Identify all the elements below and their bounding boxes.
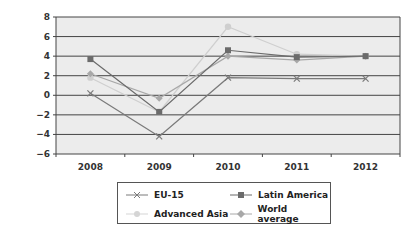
y-tick-label: −2 xyxy=(36,110,50,120)
legend-label: World average xyxy=(258,204,330,224)
y-tick-label: 6 xyxy=(44,32,50,42)
y-tick-label: 4 xyxy=(44,51,50,61)
x-axis: 20082009201020112012 xyxy=(56,154,400,172)
y-tick-label: 2 xyxy=(44,71,50,81)
square-marker-icon xyxy=(363,53,369,59)
legend-label: EU-15 xyxy=(154,190,184,200)
plot-area xyxy=(56,17,400,154)
square-marker-icon xyxy=(87,56,93,62)
y-tick-label: −6 xyxy=(36,149,50,159)
legend-item-world-average: World average xyxy=(230,207,330,221)
legend-label: Latin America xyxy=(258,190,328,200)
circle-marker-icon xyxy=(126,209,148,219)
square-marker-icon xyxy=(294,54,300,60)
line-chart: 86420−2−4−6 20082009201020112012 xyxy=(0,0,404,182)
legend-item-advanced-asia: Advanced Asia xyxy=(126,207,228,221)
legend-item-eu15: EU-15 xyxy=(126,188,184,202)
diamond-marker-icon xyxy=(230,209,252,219)
x-tick-label: 2010 xyxy=(215,162,240,172)
y-tick-label: −4 xyxy=(36,129,50,139)
y-tick-label: 0 xyxy=(44,90,50,100)
x-tick-label: 2012 xyxy=(353,162,378,172)
legend-item-latin-america: Latin America xyxy=(230,188,328,202)
square-marker-icon xyxy=(156,109,162,115)
square-marker-icon xyxy=(230,190,252,200)
x-marker-icon xyxy=(126,190,148,200)
x-tick-label: 2009 xyxy=(147,162,172,172)
y-tick-label: 8 xyxy=(44,12,50,22)
legend-label: Advanced Asia xyxy=(154,209,228,219)
square-marker-icon xyxy=(225,47,231,53)
circle-marker-icon xyxy=(225,24,231,30)
x-tick-label: 2008 xyxy=(78,162,103,172)
x-tick-label: 2011 xyxy=(284,162,309,172)
legend: EU-15 Latin America Advanced Asia World … xyxy=(117,182,331,224)
